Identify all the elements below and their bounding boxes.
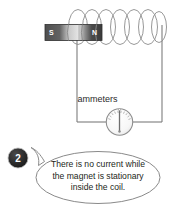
ammeter-caption: ammeters [0,95,195,104]
magnet-south-pole-label: S [49,29,54,36]
ammeter[interactable] [106,109,132,136]
callout-text-line: the magnet is stationary [34,171,162,183]
step-badge-number: 2 [8,148,28,168]
callout-text-line: inside the coil. [34,182,162,194]
coil-loop [152,12,167,43]
ammeter-needle-pivot [118,130,120,132]
ammeter-zero-mark [119,109,121,111]
coil-loop [125,10,144,45]
callout-text-line: There is no current while [34,159,162,171]
magnet-north-pole-label: N [92,29,97,36]
figure-canvas: S N ammeters 2 There is no current while… [0,0,195,224]
coil-loop [111,10,130,45]
callout-text: There is no current while the magnet is … [34,159,162,194]
